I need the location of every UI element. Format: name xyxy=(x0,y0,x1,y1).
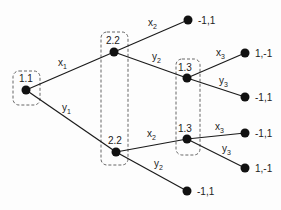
action-x3-upper: x3 xyxy=(216,47,225,60)
edge-y2-upper xyxy=(114,52,187,78)
node-label-1-3-upper: 1.3 xyxy=(178,62,192,73)
node-1-3-upper xyxy=(183,74,192,83)
terminal-1 xyxy=(184,16,193,25)
node-2-2-lower xyxy=(112,148,121,157)
edge-x3-lower xyxy=(187,133,245,139)
action-y3-upper: y3 xyxy=(219,75,228,88)
payoff-2: 1,-1 xyxy=(255,48,273,59)
payoff-4: -1,1 xyxy=(255,128,273,139)
payoff-3: -1,1 xyxy=(255,92,273,103)
payoff-1: -1,1 xyxy=(198,15,216,26)
terminal-4 xyxy=(241,129,250,138)
payoff-5: 1,-1 xyxy=(255,163,273,174)
action-y1: y1 xyxy=(62,102,71,115)
terminal-3 xyxy=(241,93,250,102)
node-1-3-lower xyxy=(183,135,192,144)
node-1-1 xyxy=(22,86,31,95)
action-y2-lower: y2 xyxy=(154,158,163,171)
node-label-1-3-lower: 1.3 xyxy=(178,123,192,134)
edge-y2-lower xyxy=(116,152,187,191)
action-x1: x1 xyxy=(58,57,67,70)
edge-y1 xyxy=(26,90,116,152)
terminal-2 xyxy=(241,49,250,58)
terminal-5 xyxy=(241,164,250,173)
game-tree: 1.1 2.2 2.2 1.3 1.3 -1,1 1,-1 -1,1 -1,1 … xyxy=(0,0,281,210)
node-label-1-1: 1.1 xyxy=(19,73,33,84)
terminal-6 xyxy=(183,187,192,196)
action-x2-upper: x2 xyxy=(148,17,157,30)
node-2-2-upper xyxy=(110,48,119,57)
node-label-2-2-lower: 2.2 xyxy=(108,135,122,146)
edge-y3-upper xyxy=(187,78,245,97)
action-x2-lower: x2 xyxy=(147,128,156,141)
action-y3-lower: y3 xyxy=(222,143,231,156)
action-y2-upper: y2 xyxy=(152,51,161,64)
action-x3-lower: x3 xyxy=(215,121,224,134)
edge-y3-lower xyxy=(187,139,245,168)
node-label-2-2-upper: 2.2 xyxy=(106,35,120,46)
payoff-6: -1,1 xyxy=(197,186,215,197)
